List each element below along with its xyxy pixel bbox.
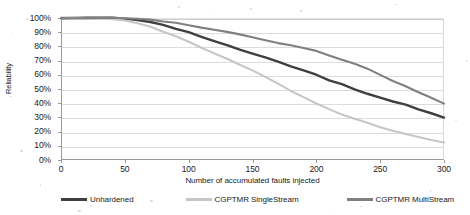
legend-item[interactable]: CGPTMR SingleStream [186, 195, 299, 204]
scan-speck [9, 96, 12, 97]
x-tick-mark [189, 160, 190, 163]
x-tick-label: 0 [41, 164, 81, 174]
scan-speck [150, 200, 153, 202]
x-tick-mark [61, 160, 62, 163]
x-tick-label: 100 [169, 164, 209, 174]
scan-speck [178, 6, 180, 8]
x-tick-label: 150 [233, 164, 273, 174]
x-axis-title: Number of accumulated faults injected [61, 176, 444, 185]
x-tick-mark [125, 160, 126, 163]
legend-item[interactable]: CGPTMR MultiStream [347, 195, 455, 204]
x-tick-mark [316, 160, 317, 163]
scan-speck [330, 212, 331, 213]
legend-swatch-icon [347, 198, 373, 201]
scan-speck [26, 18, 28, 20]
x-tick-label: 200 [296, 164, 336, 174]
x-tick-mark [253, 160, 254, 163]
legend-label: CGPTMR MultiStream [376, 195, 455, 204]
reliability-line-chart: 0%10%20%30%40%50%60%70%80%90%100% Reliab… [0, 0, 470, 215]
scan-speck [40, 184, 41, 186]
series-line [61, 18, 444, 118]
legend-swatch-icon [61, 198, 87, 201]
chart-legend: UnhardenedCGPTMR SingleStreamCGPTMR Mult… [55, 192, 455, 206]
scan-speck [90, 206, 92, 207]
scan-speck [3, 70, 5, 71]
x-tick-mark [380, 160, 381, 163]
series-line [61, 18, 444, 104]
legend-item[interactable]: Unhardened [61, 195, 134, 204]
legend-swatch-icon [186, 198, 212, 201]
legend-label: CGPTMR SingleStream [215, 195, 299, 204]
x-tick-mark [444, 160, 445, 163]
x-tick-label: 300 [424, 164, 464, 174]
scan-speck [300, 10, 302, 12]
scan-speck [430, 190, 431, 192]
x-tick-label: 250 [360, 164, 400, 174]
x-tick-label: 50 [105, 164, 145, 174]
scan-speck [78, 210, 81, 212]
scan-speck [20, 150, 23, 152]
legend-label: Unhardened [90, 195, 134, 204]
scan-speck [250, 8, 252, 10]
